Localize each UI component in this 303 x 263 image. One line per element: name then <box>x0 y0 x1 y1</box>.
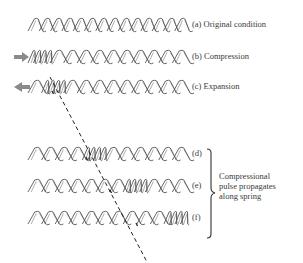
pull-arrow-icon <box>14 82 30 92</box>
pulse-marker <box>110 190 112 193</box>
brace-note-line-3: along spring <box>219 191 276 201</box>
row-label-f: (f) <box>192 212 201 222</box>
spring-coil <box>28 50 194 64</box>
row-label-a: (a) Original condition <box>192 19 266 29</box>
spring-coil <box>28 147 194 161</box>
brace-note-line-1: Compressional <box>219 171 276 181</box>
row-label-e: (e) <box>192 180 201 190</box>
row-label-c: (c) Expansion <box>192 81 239 91</box>
pulse-path-dashed-line <box>50 77 147 262</box>
push-arrow-icon <box>14 52 29 62</box>
row-label-b: (b) Compression <box>192 51 249 61</box>
row-label-d: (d) <box>192 148 202 158</box>
spring-coil <box>28 179 194 193</box>
spring-diagram <box>0 0 303 263</box>
brace-note-line-2: pulse propagates <box>219 181 276 191</box>
brace-note: Compressional pulse propagates along spr… <box>219 171 276 201</box>
curly-brace <box>207 149 215 238</box>
spring-coil <box>28 211 189 225</box>
